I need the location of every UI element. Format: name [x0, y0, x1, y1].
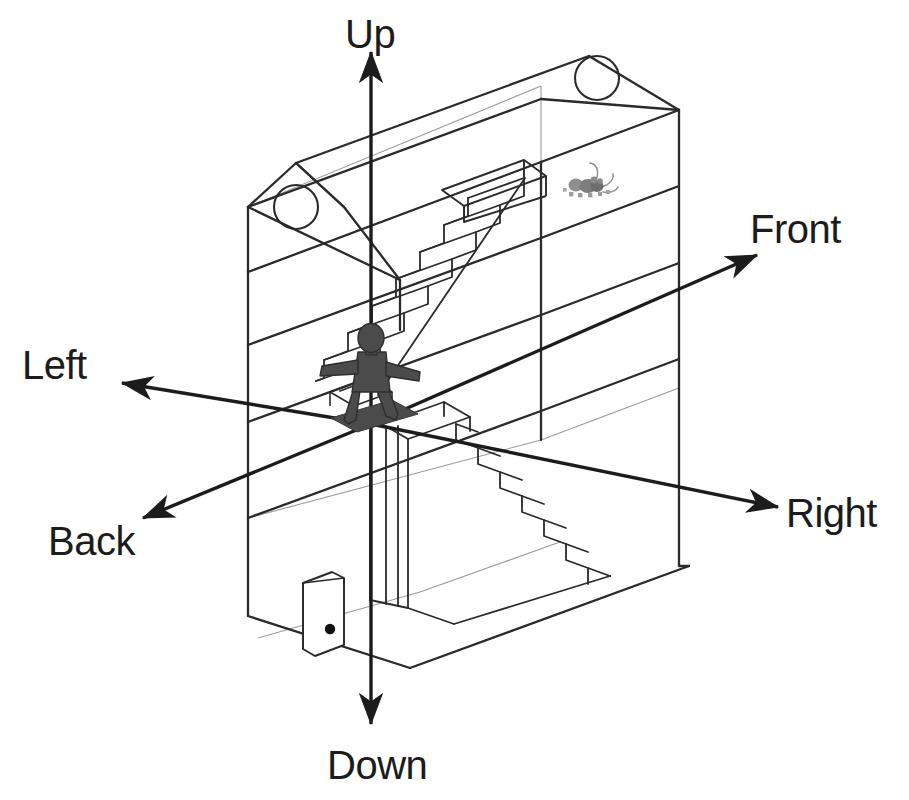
- axis-line-back: [143, 424, 371, 518]
- person-figure: [320, 324, 420, 433]
- axis-label-left: Left: [22, 345, 87, 385]
- spatial-reference-diagram: [0, 0, 909, 800]
- lower-staircase: [370, 402, 610, 624]
- axis-line-front: [371, 255, 757, 424]
- round-window-left: [274, 185, 318, 229]
- axis-label-back: Back: [48, 521, 135, 561]
- diagram-canvas: Up Down Left Right Front Back: [0, 0, 909, 800]
- axis-label-right: Right: [786, 493, 877, 533]
- round-window-right: [575, 56, 619, 100]
- mouse-icon: [563, 163, 618, 197]
- axis-label-up: Up: [345, 14, 395, 54]
- axis-line-right: [371, 424, 778, 507]
- stair-opening: [442, 160, 546, 222]
- house-outline: [248, 56, 689, 668]
- axis-label-down: Down: [327, 745, 427, 785]
- door-knob: [325, 624, 335, 634]
- door: [303, 572, 344, 656]
- axis-label-front: Front: [750, 209, 841, 249]
